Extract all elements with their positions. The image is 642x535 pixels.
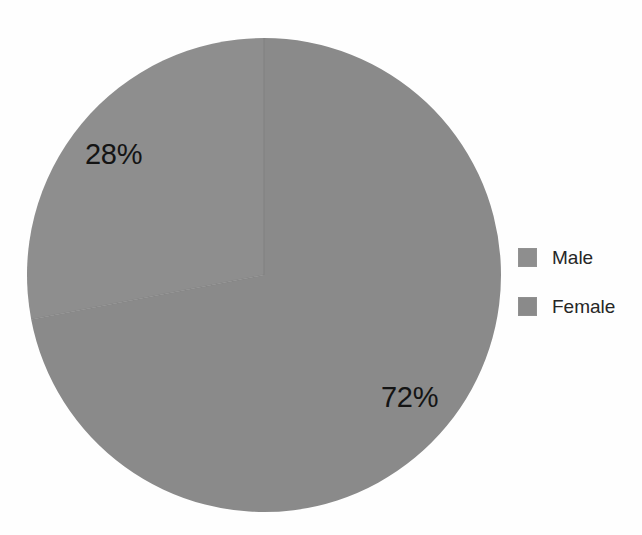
legend-swatch-male-icon [518,248,537,267]
pie-label-male-percent: 28% [85,140,142,169]
legend-item-female[interactable]: Female [518,282,636,331]
legend-swatch-female-icon [518,297,537,316]
pie-label-female-percent: 72% [381,383,438,412]
legend-label-female: Female [552,297,615,316]
pie-slice-male[interactable] [27,38,264,319]
legend-item-male[interactable]: Male [518,233,636,282]
legend-label-male: Male [552,248,593,267]
pie-chart: 28% 72% Male Female [0,0,642,535]
chart-legend: Male Female [518,233,636,331]
